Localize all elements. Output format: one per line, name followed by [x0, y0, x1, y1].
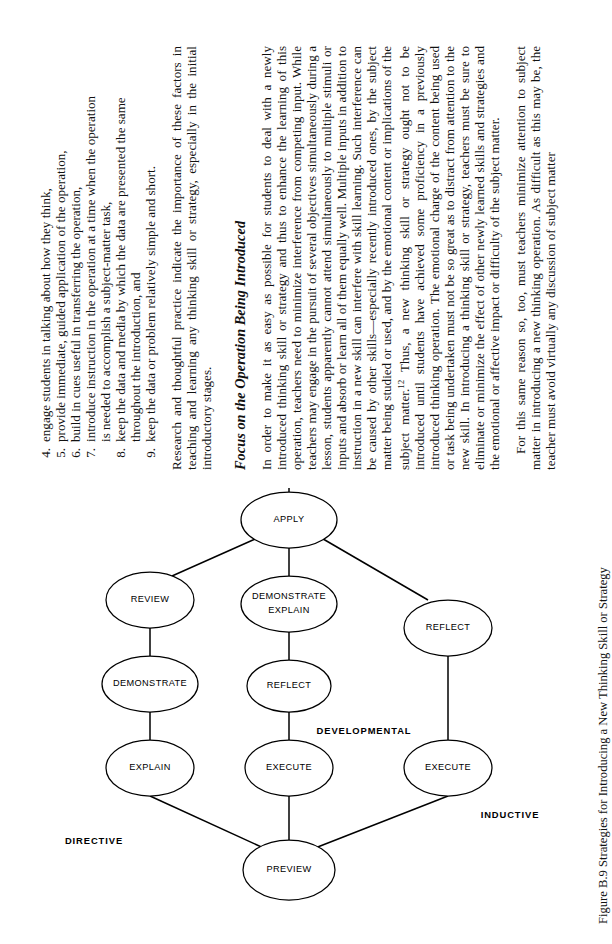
node-dev-demonstrate-label: DEMONSTRATE: [252, 591, 326, 601]
footnote-marker: 12: [396, 380, 406, 389]
list-item-text: keep the data and media by which the dat…: [113, 46, 143, 442]
edge-dir-review-apply: [172, 536, 262, 576]
list-item: 7. introduce instruction in the operatio…: [83, 46, 113, 470]
list-item-text: introduce instruction in the operation a…: [83, 46, 113, 442]
list-item-number: 8.: [113, 442, 143, 470]
node-dev-explain-demonstrate: [241, 576, 337, 632]
node-dir-review-label: REVIEW: [131, 594, 170, 604]
figure-b9-diagram: PREVIEW EXPLAIN DEMONSTRATE REVIEW DIREC…: [30, 488, 590, 928]
body-paragraph-1-part1: In order to make it as easy as possible …: [259, 46, 412, 470]
node-dir-explain-label: EXPLAIN: [129, 762, 171, 772]
list-item-line1: introduce instruction in the operation a…: [83, 46, 98, 442]
research-paragraph: Research and thoughtful practice indicat…: [169, 46, 214, 470]
node-ind-reflect-label: REFLECT: [426, 622, 471, 632]
branch-label-directive: DIRECTIVE: [65, 835, 123, 846]
figure-caption: Figure B.9 Strategies for Introducing a …: [596, 488, 611, 924]
list-item: 8. keep the data and media by which the …: [113, 46, 143, 470]
list-item-text: build in cues useful in transferring the…: [68, 46, 83, 442]
list-item-line1: keep the data and media by which the dat…: [113, 46, 128, 442]
list-item-number: 6.: [68, 442, 83, 470]
node-ind-execute-label: EXECUTE: [425, 762, 471, 772]
node-dir-demonstrate-label: DEMONSTRATE: [113, 678, 187, 688]
list-item-number: 7.: [83, 442, 113, 470]
list-item-text: keep the data or problem relatively simp…: [143, 46, 158, 442]
edge-preview-to-directive: [150, 796, 268, 850]
list-item-number: 9.: [143, 442, 158, 470]
list-item-line2: is needed to accomplish a subject-matter…: [98, 46, 113, 442]
list-item: 6. build in cues useful in transferring …: [68, 46, 83, 470]
list-item: 9. keep the data or problem relatively s…: [143, 46, 158, 470]
list-item: 4. engage students in talking about how …: [38, 46, 53, 470]
node-dev-reflect-label: REFLECT: [267, 680, 312, 690]
list-item-line2: throughout the introduction, and: [128, 46, 143, 442]
node-preview-label: PREVIEW: [266, 864, 311, 874]
body-text-column: 4. engage students in talking about how …: [38, 46, 558, 470]
list-item-text: engage students in talking about how the…: [38, 46, 53, 442]
node-dev-explain-label: EXPLAIN: [268, 605, 310, 615]
list-item: 5. provide immediate, guided application…: [53, 46, 68, 470]
edge-ind-reflect-apply: [318, 536, 428, 600]
page-content: PREVIEW EXPLAIN DEMONSTRATE REVIEW DIREC…: [0, 0, 612, 944]
body-paragraph-1-part2: Thus, a new thinking skill or strategy o…: [397, 46, 502, 470]
body-paragraph-1: In order to make it as easy as possible …: [259, 46, 502, 470]
body-paragraph-2: For this same reason so, too, must teach…: [513, 46, 558, 470]
flowchart-svg: PREVIEW EXPLAIN DEMONSTRATE REVIEW DIREC…: [30, 488, 590, 928]
node-apply-label: APPLY: [274, 514, 305, 524]
branch-label-developmental: DEVELOPMENTAL: [317, 725, 412, 736]
factors-numbered-list: 4. engage students in talking about how …: [38, 46, 158, 470]
list-item-number: 5.: [53, 442, 68, 470]
edge-preview-to-inductive: [310, 796, 448, 850]
list-item-text: provide immediate, guided application of…: [53, 46, 68, 442]
section-heading: Focus on the Operation Being Introduced: [233, 46, 248, 470]
branch-label-inductive: INDUCTIVE: [481, 809, 540, 820]
node-dev-execute-label: EXECUTE: [266, 762, 312, 772]
rotated-page: PREVIEW EXPLAIN DEMONSTRATE REVIEW DIREC…: [0, 0, 612, 944]
list-item-number: 4.: [38, 442, 53, 470]
